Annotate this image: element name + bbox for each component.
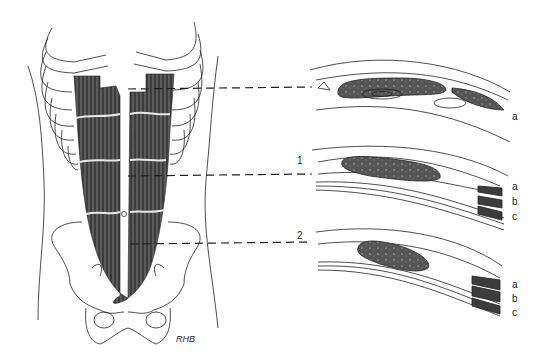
anatomy-figure: RHB [0,0,544,362]
artist-signature: RHB [176,334,195,344]
rectus-abdominis [74,74,174,303]
figure-drawing: RHB [0,0,544,362]
umbilicus [122,212,127,217]
level-marker-1: 1 [297,156,303,166]
layer-label-middle-c: c [512,212,517,222]
cross-section-top [310,60,510,142]
pelvis-outline [52,222,200,344]
linea-alba-section [318,82,330,90]
layer-label-top-a: a [512,112,518,122]
layer-label-middle-a: a [512,182,518,192]
level-marker-2: 2 [297,231,303,241]
layer-label-middle-b: b [512,197,518,207]
layer-label-bottom-b: b [512,294,518,304]
torso-outline [28,56,218,328]
layer-label-bottom-a: a [512,280,518,290]
cross-section-middle [312,146,508,230]
layer-label-bottom-c: c [512,308,517,318]
cross-section-bottom [316,229,502,316]
